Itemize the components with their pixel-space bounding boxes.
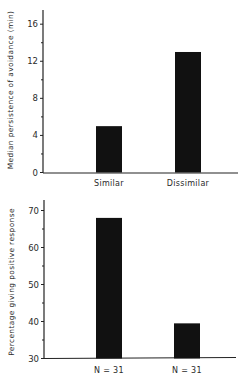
y-axis-title-top: Median persistence of avoidance (min)	[6, 11, 15, 170]
x-axis-labels-top: SimilarDissimilar	[94, 179, 210, 188]
y-axis-ticks-top: 0481216	[27, 19, 43, 177]
bar	[96, 218, 122, 359]
y-tick-label: 8	[33, 93, 38, 103]
y-tick-label: 50	[28, 280, 39, 290]
y-tick-label: 4	[33, 130, 38, 140]
x-axis-labels-bottom: N = 31N = 31	[94, 366, 202, 375]
y-tick-label: 0	[33, 168, 38, 178]
y-axis-title-bottom: Percentage giving positive response	[7, 208, 16, 356]
x-category-label: N = 31	[172, 366, 202, 375]
bars-top	[96, 52, 201, 173]
chart-bottom-percentage: Percentage giving positive response 3040…	[7, 200, 236, 375]
y-tick-label: 30	[28, 354, 39, 364]
bar	[174, 323, 200, 358]
x-category-label: Dissimilar	[167, 179, 210, 188]
y-tick-label: 16	[27, 19, 38, 29]
chart-top-persistence: Median persistence of avoidance (min) 04…	[6, 10, 238, 188]
y-tick-label: 60	[28, 243, 39, 253]
bar	[175, 52, 201, 173]
y-tick-label: 70	[28, 206, 39, 216]
x-category-label: N = 31	[94, 366, 124, 375]
figure: Median persistence of avoidance (min) 04…	[0, 0, 245, 381]
x-axis-line-bottom	[44, 358, 236, 359]
y-tick-label: 12	[27, 56, 38, 66]
y-axis-ticks-bottom: 3040506070	[28, 206, 44, 364]
x-category-label: Similar	[94, 179, 124, 188]
bar	[96, 126, 122, 172]
y-tick-label: 40	[28, 317, 39, 327]
bars-bottom	[96, 218, 200, 359]
